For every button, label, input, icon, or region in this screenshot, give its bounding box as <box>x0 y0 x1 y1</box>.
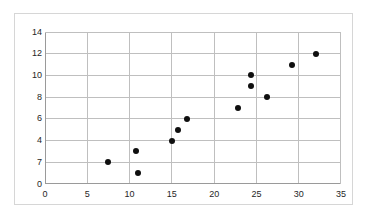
data-point <box>169 138 175 144</box>
data-point <box>184 116 190 122</box>
y-tick-label: 4 <box>14 136 42 145</box>
data-points-layer <box>45 32 341 184</box>
y-tick-label: 12 <box>14 49 42 58</box>
y-tick-label: 8 <box>14 93 42 102</box>
y-tick-label: 0 <box>14 180 42 189</box>
data-point <box>248 83 254 89</box>
plot-area <box>45 32 341 184</box>
x-tick-label: 25 <box>241 189 271 199</box>
y-tick-label: 6 <box>14 114 42 123</box>
data-point <box>133 148 139 154</box>
data-point <box>105 159 111 165</box>
y-tick-label: 7 <box>14 158 42 167</box>
data-point <box>175 127 181 133</box>
x-tick-label: 20 <box>199 189 229 199</box>
y-axis-tick-labels: 07468101214 <box>14 32 42 184</box>
x-tick-label: 35 <box>326 189 356 199</box>
x-tick-label: 30 <box>284 189 314 199</box>
data-point <box>313 51 319 57</box>
scatter-chart-figure: 07468101214 05101520253035 <box>0 0 369 218</box>
data-point <box>289 62 295 68</box>
data-point <box>235 105 241 111</box>
data-point <box>135 170 141 176</box>
x-tick-label: 10 <box>115 189 145 199</box>
y-tick-label: 14 <box>14 28 42 37</box>
y-tick-label: 10 <box>14 71 42 80</box>
x-axis-tick-labels: 05101520253035 <box>45 189 341 203</box>
data-point <box>264 94 270 100</box>
x-tick-label: 5 <box>72 189 102 199</box>
x-tick-label: 15 <box>157 189 187 199</box>
data-point <box>248 72 254 78</box>
x-tick-label: 0 <box>30 189 60 199</box>
